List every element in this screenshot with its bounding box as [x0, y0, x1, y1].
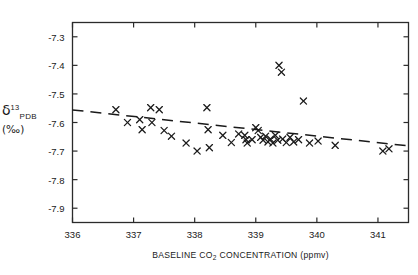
x-tick-label: 337	[126, 229, 142, 240]
y-tick-label: -7.7	[48, 146, 64, 157]
data-point-marker	[206, 145, 212, 151]
data-point-marker	[183, 140, 189, 146]
data-point-marker	[332, 142, 338, 148]
data-point-marker	[149, 119, 155, 125]
x-tick-label: 339	[248, 229, 264, 240]
data-point-marker	[161, 127, 167, 133]
data-point-marker	[148, 105, 154, 111]
y-tick-label: -7.9	[48, 203, 64, 214]
y-tick-label: -7.3	[48, 32, 64, 43]
data-point-marker	[194, 148, 200, 154]
x-title-suffix: CONCENTRATION (ppmv)	[217, 250, 329, 260]
x-tick-label: 336	[65, 229, 81, 240]
y-tick-label: -7.8	[48, 175, 64, 186]
data-point-marker	[300, 98, 306, 104]
data-point-marker	[139, 127, 145, 133]
x-axis-title: BASELINE CO2 CONCENTRATION (ppmv)	[152, 250, 329, 262]
y-tick-label: -7.4	[48, 60, 64, 71]
x-axis-ticks: 336337338339340341	[65, 23, 386, 240]
chart-figure: δ13PDB (‰) -7.3-7.4-7.5-7.6-7.7-7.8-7.9 …	[0, 0, 418, 275]
x-title-prefix: BASELINE CO	[152, 250, 213, 260]
axes-frame	[73, 23, 409, 223]
data-point-marker	[242, 132, 248, 138]
data-point-marker	[156, 107, 162, 113]
data-point-marker	[220, 132, 226, 138]
data-point-marker	[168, 133, 174, 139]
x-tick-label: 340	[309, 229, 325, 240]
plot-border	[73, 23, 409, 223]
y-tick-label: -7.6	[48, 118, 64, 129]
y-axis-ticks: -7.3-7.4-7.5-7.6-7.7-7.8-7.9	[48, 32, 408, 214]
y-tick-label: -7.5	[48, 89, 64, 100]
data-point-marker	[315, 138, 321, 144]
data-point-marker	[276, 62, 282, 68]
data-point-marker	[380, 148, 386, 154]
data-point-marker	[204, 105, 210, 111]
x-tick-label: 338	[187, 229, 203, 240]
x-axis-title-text: BASELINE CO2 CONCENTRATION (ppmv)	[152, 250, 329, 262]
data-point-marker	[306, 140, 312, 146]
x-tick-label: 341	[370, 229, 386, 240]
trendline	[73, 110, 409, 146]
data-point-marker	[386, 146, 392, 152]
data-point-marker	[228, 139, 234, 145]
data-point-marker	[278, 69, 284, 75]
regression-dashed-line	[73, 110, 409, 146]
scatter-plot-canvas: -7.3-7.4-7.5-7.6-7.7-7.8-7.9 33633733833…	[0, 0, 418, 275]
data-point-marker	[137, 117, 143, 123]
data-point-marker	[236, 131, 242, 137]
data-point-marker	[205, 127, 211, 133]
data-point-marker	[124, 119, 130, 125]
data-point-marker	[113, 107, 119, 113]
